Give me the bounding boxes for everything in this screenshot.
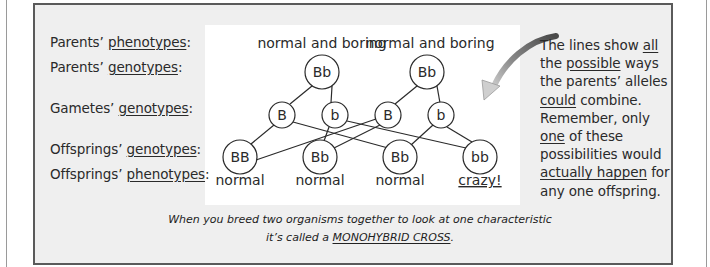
offspring-2-phenotype: normal (295, 172, 344, 188)
note-emphasis: one (540, 128, 565, 144)
offspring-1-phenotype: normal (215, 172, 264, 188)
note-text: for (647, 164, 669, 180)
note-line-6: one of these (540, 127, 670, 145)
gamete-2: b (322, 102, 348, 128)
parent-2-phenotype: normal and boring (365, 35, 494, 51)
gamete-4: b (428, 102, 454, 128)
offspring-4-phenotype: crazy! (458, 172, 501, 188)
note-line-1: The lines show all (540, 36, 670, 54)
note-line-3: the parents’ alleles (540, 72, 670, 90)
side-note: The lines show all the possible ways the… (540, 36, 670, 200)
offspring-1: BB normal (215, 140, 264, 188)
offspring-3-genotype: Bb (391, 149, 410, 165)
note-text: ways (621, 55, 659, 71)
gamete-3-allele: B (383, 107, 393, 123)
parent-2-genotype: Bb (418, 64, 437, 80)
offspring-3-phenotype: normal (375, 172, 424, 188)
gamete-3: B (375, 102, 401, 128)
note-text: The lines show (540, 37, 643, 53)
note-emphasis: actually happen (540, 164, 647, 180)
offspring-1-genotype: BB (230, 149, 249, 165)
note-text: possibilities would (540, 146, 661, 162)
note-line-5: Remember, only (540, 109, 670, 127)
caption-line-2: it’s called a MONOHYBRID CROSS. (150, 231, 570, 244)
note-line-9: any one offspring. (540, 182, 670, 200)
caption-text: . (450, 231, 454, 244)
gamete-2-allele: b (331, 107, 340, 123)
note-line-8: actually happen for (540, 163, 670, 181)
note-line-4: could combine. (540, 91, 670, 109)
caption-line-1: When you breed two organisms together to… (150, 213, 570, 226)
note-emphasis: all (643, 37, 658, 53)
note-text: Remember, only (540, 110, 650, 126)
gamete-1-allele: B (277, 107, 287, 123)
note-text: of these (565, 128, 623, 144)
offspring-2: Bb normal (295, 140, 344, 188)
note-text: any one offspring. (540, 183, 661, 199)
note-line-2: the possible ways (540, 54, 670, 72)
note-line-7: possibilities would (540, 145, 670, 163)
caption-term: MONOHYBRID CROSS (333, 231, 451, 244)
gamete-4-allele: b (437, 107, 446, 123)
parent-1-genotype: Bb (313, 64, 332, 80)
offspring-4-genotype: bb (471, 149, 489, 165)
note-text: the (540, 55, 566, 71)
note-emphasis: could (540, 92, 576, 108)
parent-gamete-lines (290, 86, 440, 104)
parent-2: normal and boring Bb (365, 35, 494, 89)
note-text: the parents’ alleles (540, 73, 667, 89)
offspring-2-genotype: Bb (311, 149, 330, 165)
note-emphasis: possible (566, 55, 620, 71)
note-text: combine. (576, 92, 642, 108)
caption-text: it’s called a (266, 231, 332, 244)
gamete-1: B (269, 102, 295, 128)
caption-text: When you breed two organisms together to… (168, 213, 552, 226)
